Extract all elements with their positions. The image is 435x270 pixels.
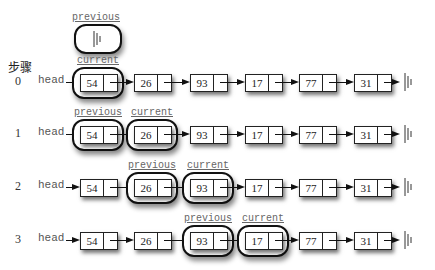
node-next-ref [323, 127, 336, 143]
arrow-icon [392, 237, 400, 243]
node-next-ref [323, 75, 336, 91]
node-next-ref [104, 233, 117, 249]
previous-label-initial: previous [66, 12, 126, 23]
arrow-icon [126, 237, 134, 243]
node-value: 17 [246, 233, 269, 249]
arrow-icon [237, 131, 245, 137]
current-label: current [68, 55, 128, 66]
arrow-icon [126, 79, 134, 85]
list-node: 31 [354, 179, 392, 197]
arrow-icon [346, 131, 354, 137]
node-value: 31 [355, 127, 378, 143]
list-node: 26 [134, 179, 172, 197]
list-node: 93 [190, 74, 228, 92]
node-next-ref [269, 233, 282, 249]
next-arrow-line [275, 187, 291, 188]
list-node: 31 [354, 126, 392, 144]
node-next-ref [104, 75, 117, 91]
node-value: 93 [191, 180, 214, 196]
node-value: 93 [191, 127, 214, 143]
previous-label: previous [122, 160, 182, 171]
arrow-icon [72, 184, 80, 190]
node-value: 54 [81, 75, 104, 91]
current-label: current [178, 160, 238, 171]
next-arrow-line [275, 240, 291, 241]
current-label: current [233, 213, 293, 224]
list-node: 77 [299, 232, 337, 250]
list-node: 26 [134, 126, 172, 144]
list-node: 54 [80, 126, 118, 144]
next-arrow-line [384, 240, 392, 241]
list-node: 54 [80, 232, 118, 250]
list-node: 17 [245, 179, 283, 197]
arrow-icon [237, 184, 245, 190]
arrow-icon [392, 184, 400, 190]
next-arrow-line [329, 240, 346, 241]
head-label: head [38, 232, 64, 244]
node-value: 26 [135, 127, 158, 143]
list-node: 31 [354, 232, 392, 250]
node-next-ref [104, 180, 117, 196]
node-value: 54 [81, 127, 104, 143]
next-arrow-line [384, 82, 392, 83]
node-next-ref [158, 180, 171, 196]
next-arrow-line [164, 82, 182, 83]
node-next-ref [323, 180, 336, 196]
arrow-icon [346, 79, 354, 85]
node-value: 17 [246, 127, 269, 143]
next-arrow-line [220, 240, 237, 241]
node-value: 26 [135, 75, 158, 91]
list-node: 26 [134, 232, 172, 250]
list-node: 31 [354, 74, 392, 92]
next-arrow-line [329, 187, 346, 188]
next-arrow-line [164, 134, 182, 135]
list-node: 93 [190, 179, 228, 197]
next-arrow-line [220, 187, 237, 188]
arrow-icon [392, 79, 400, 85]
next-arrow-line [110, 187, 126, 188]
arrow-icon [346, 237, 354, 243]
node-value: 31 [355, 75, 378, 91]
node-next-ref [214, 127, 227, 143]
list-node: 54 [80, 179, 118, 197]
next-arrow-line [275, 82, 291, 83]
node-value: 77 [300, 127, 323, 143]
previous-label: previous [178, 213, 238, 224]
arrow-icon [291, 79, 299, 85]
node-next-ref [269, 75, 282, 91]
arrow-icon [392, 131, 400, 137]
list-node: 93 [190, 126, 228, 144]
node-next-ref [323, 233, 336, 249]
previous-none-box [74, 24, 122, 54]
arrow-icon [346, 184, 354, 190]
node-value: 17 [246, 75, 269, 91]
next-arrow-line [164, 240, 182, 241]
node-next-ref [269, 127, 282, 143]
node-value: 93 [191, 233, 214, 249]
node-value: 17 [246, 180, 269, 196]
node-value: 77 [300, 180, 323, 196]
next-arrow-line [329, 82, 346, 83]
node-next-ref [214, 75, 227, 91]
list-node: 77 [299, 126, 337, 144]
next-arrow-line [110, 240, 126, 241]
head-label: head [38, 179, 64, 191]
node-value: 26 [135, 180, 158, 196]
ground-icon [93, 31, 103, 47]
arrow-icon [72, 237, 80, 243]
list-node: 17 [245, 74, 283, 92]
current-label: current [122, 107, 182, 118]
ground-icon [404, 125, 413, 143]
list-node: 77 [299, 74, 337, 92]
previous-label: previous [68, 107, 128, 118]
arrow-icon [182, 131, 190, 137]
arrow-icon [182, 79, 190, 85]
next-arrow-line [110, 82, 126, 83]
ground-icon [404, 231, 413, 249]
arrow-icon [291, 237, 299, 243]
node-value: 77 [300, 75, 323, 91]
node-next-ref [214, 180, 227, 196]
arrow-icon [237, 79, 245, 85]
step-number: 3 [12, 232, 24, 247]
next-arrow-line [164, 187, 182, 188]
